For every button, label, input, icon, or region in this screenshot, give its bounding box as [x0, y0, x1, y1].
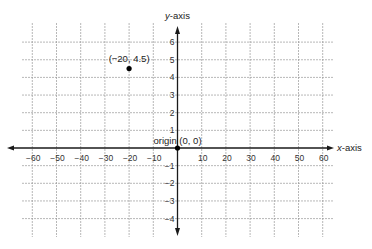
y-tick-label: 2 [170, 108, 175, 118]
x-tick-label: 60 [319, 153, 329, 163]
points: (−20, 4.5)origin (0, 0) [109, 53, 202, 151]
y-axis-down-arrow-icon [175, 228, 180, 236]
x-tick-label: 30 [246, 153, 256, 163]
x-axis-left-arrow-icon [7, 146, 14, 151]
x-tick-label: −40 [74, 153, 89, 163]
x-tick-label: −30 [99, 153, 114, 163]
x-tick-label: −50 [50, 153, 65, 163]
x-tick-label: 40 [271, 153, 281, 163]
y-tick-label: 5 [170, 55, 175, 65]
y-tick-label: −2 [165, 178, 175, 188]
origin-point-label: origin (0, 0) [154, 135, 202, 146]
y-tick-label: −1 [165, 161, 175, 171]
y-tick-label: 4 [170, 72, 175, 82]
x-axis-right-arrow-icon [327, 146, 334, 151]
y-tick-label: 6 [170, 37, 175, 47]
point-neg20-4p5-label: (−20, 4.5) [109, 53, 150, 64]
x-tick-label: −10 [147, 153, 162, 163]
x-tick-label: 10 [198, 153, 208, 163]
point-neg20-4p5 [127, 66, 132, 71]
x-tick-label: 50 [295, 153, 305, 163]
y-tick-label: −4 [165, 214, 175, 224]
y-tick-label: 1 [170, 125, 175, 135]
y-axis-label: y-axis [164, 10, 190, 21]
y-axis-up-arrow-icon [175, 26, 180, 34]
y-tick-label: −3 [165, 196, 175, 206]
x-tick-label: −20 [123, 153, 138, 163]
origin-point [175, 145, 180, 150]
x-axis-label: x-axis [336, 142, 362, 153]
x-tick-label: −60 [26, 153, 41, 163]
y-tick-label: 3 [170, 90, 175, 100]
coordinate-plane: −60−50−40−30−20−10102030405060654321−1−2… [0, 0, 372, 249]
axis-labels: x-axisy-axis [164, 10, 362, 153]
x-tick-label: 20 [222, 153, 232, 163]
